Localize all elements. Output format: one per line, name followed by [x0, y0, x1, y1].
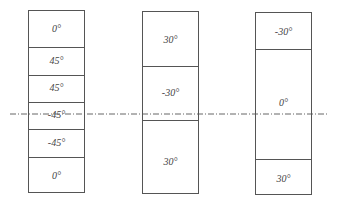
ply-label: 30°: [143, 34, 198, 46]
ply-label: -30°: [143, 87, 198, 99]
ply-label: -45°: [29, 137, 84, 149]
ply-divider: [29, 75, 84, 76]
ply-divider: [29, 129, 84, 130]
ply-divider: [143, 66, 198, 67]
ply-divider: [143, 120, 198, 121]
ply-label: 0°: [29, 170, 84, 182]
laminate-3: -30° 0° 30°: [255, 12, 312, 195]
ply-divider: [256, 159, 311, 160]
ply-label: 30°: [256, 173, 311, 185]
laminate-2: 30° -30° 30°: [142, 11, 199, 194]
ply-divider: [29, 47, 84, 48]
ply-label: 0°: [29, 23, 84, 35]
ply-label: 45°: [29, 55, 84, 67]
ply-label: -30°: [256, 26, 311, 38]
ply-label: 45°: [29, 82, 84, 94]
ply-label: -45°: [29, 109, 84, 121]
ply-label: 0°: [256, 97, 311, 109]
laminate-1: 0° 45° 45° -45° -45° 0°: [28, 10, 85, 193]
ply-divider: [29, 102, 84, 103]
ply-divider: [256, 49, 311, 50]
ply-divider: [29, 157, 84, 158]
ply-label: 30°: [143, 156, 198, 168]
